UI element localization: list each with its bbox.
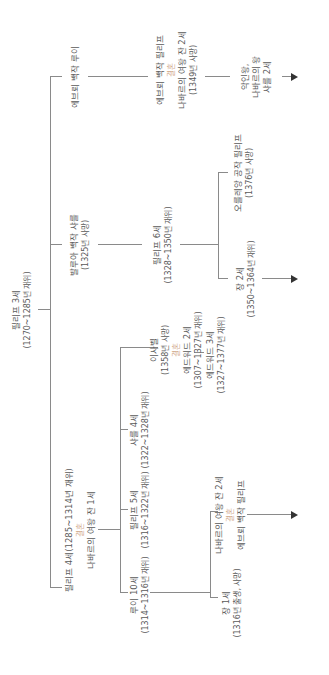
person-philippe-5: 필리프 5세 (1316~1322년 재위): [129, 471, 151, 548]
connector: [210, 512, 211, 598]
connector: [38, 309, 50, 310]
person-charles-2-navarre: 악인왕, 나바르의 왕 샤를 2세: [240, 56, 273, 99]
arrow-down-icon: [291, 511, 298, 519]
connector: [50, 76, 62, 77]
connector: [50, 77, 51, 588]
genealogy-diagram: 필리프 3세 (1270~1285년 재위) 에브뢰 백작 루이 발루아 백작 …: [0, 0, 329, 675]
connector: [120, 429, 128, 430]
person-louis-10: 루이 10세 (1314~1316년 재위): [129, 556, 151, 633]
person-jean-2: 장 2세 (1350~1364년 재위): [235, 240, 257, 317]
connector: [120, 509, 128, 510]
person-charles-valois: 발루아 백작 샤를 (1325년 사망): [69, 214, 91, 275]
connector: [50, 587, 62, 588]
person-jeanne-2: 나바르의 여왕 잔 2세 결혼 에브뢰 백작 필리프: [214, 476, 247, 554]
connector: [120, 592, 128, 593]
connector: [262, 278, 292, 279]
person-charles-4: 샤를 4세 (1322~1328년 재위): [129, 391, 151, 468]
person-philippe-evreux: 에브뢰 백작 필리프 결혼 나바르의 여왕 잔 2세 (1349년 사망): [155, 31, 199, 109]
connector: [218, 278, 228, 279]
marriage-label: 결혼: [171, 311, 182, 388]
marriage-label: 결혼: [75, 468, 86, 592]
arrow-down-icon: [291, 73, 298, 81]
connector: [98, 244, 142, 245]
connector: [205, 76, 230, 77]
connector: [120, 348, 121, 593]
connector: [98, 529, 120, 530]
person-philippe-orleans: 오를레앙 공작 필리프 (1376년 사망): [233, 134, 255, 211]
connector: [210, 597, 218, 598]
arrow-down-icon: [291, 275, 298, 283]
person-philippe-3: 필리프 3세 (1270~1285년 재위): [11, 271, 33, 348]
person-philippe-6: 필리프 6세 (1328~1350년 재위): [152, 206, 174, 283]
marriage-label: 결혼: [166, 31, 177, 109]
connector: [218, 173, 219, 279]
connector: [150, 592, 210, 593]
person-jean-1: 장 1세 (1316년 출생, 사망): [221, 568, 243, 637]
person-isabelle: 이사벨 (1358년 사망) 결혼 에드워드 2세 (1307~1327년 재위…: [149, 311, 204, 388]
connector: [180, 244, 218, 245]
connector: [247, 514, 292, 515]
connector: [50, 244, 62, 245]
connector: [218, 172, 228, 173]
connector: [88, 76, 148, 77]
person-edward-3: 에드워드 3세 (1327~1377년 재위): [205, 316, 227, 393]
person-philippe-4: 필리프 4세(1285~1314년 재위) 결혼 나바르의 여왕 잔 1세: [64, 468, 97, 592]
marriage-label: 결혼: [225, 476, 236, 554]
person-louis-evreux: 에브뢰 백작 루이: [70, 46, 81, 107]
